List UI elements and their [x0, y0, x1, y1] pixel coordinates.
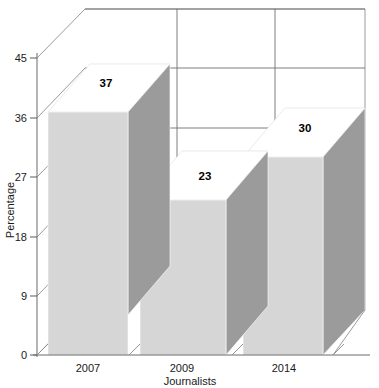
ytick-label-27: 27	[15, 171, 27, 183]
bar-chart-figure: 45 36 27 18 9 0 Percentage	[0, 0, 379, 388]
value-label-2014: 30	[299, 122, 312, 134]
bar-front-2007	[48, 112, 128, 355]
chart-title-clipped	[0, 0, 379, 4]
y-axis: 45 36 27 18 9 0 Percentage	[4, 52, 37, 361]
x-axis-title: Journalists	[164, 375, 217, 387]
xtick-depth-0	[37, 344, 48, 355]
y-axis-title: Percentage	[4, 182, 16, 238]
value-label-2007: 37	[100, 77, 113, 89]
value-label-2009: 23	[199, 170, 212, 182]
xtick-label-2014: 2014	[272, 362, 296, 374]
ytick-label-45: 45	[15, 52, 27, 64]
xtick-depth-1	[129, 344, 140, 355]
ytick-label-9: 9	[21, 290, 27, 302]
xtick-label-2007: 2007	[76, 362, 100, 374]
ytick-label-0: 0	[21, 349, 27, 361]
xtick-label-2009: 2009	[170, 362, 194, 374]
ytick-label-36: 36	[15, 112, 27, 124]
chart-canvas: 45 36 27 18 9 0 Percentage	[0, 0, 379, 388]
ytick-label-18: 18	[15, 231, 27, 243]
